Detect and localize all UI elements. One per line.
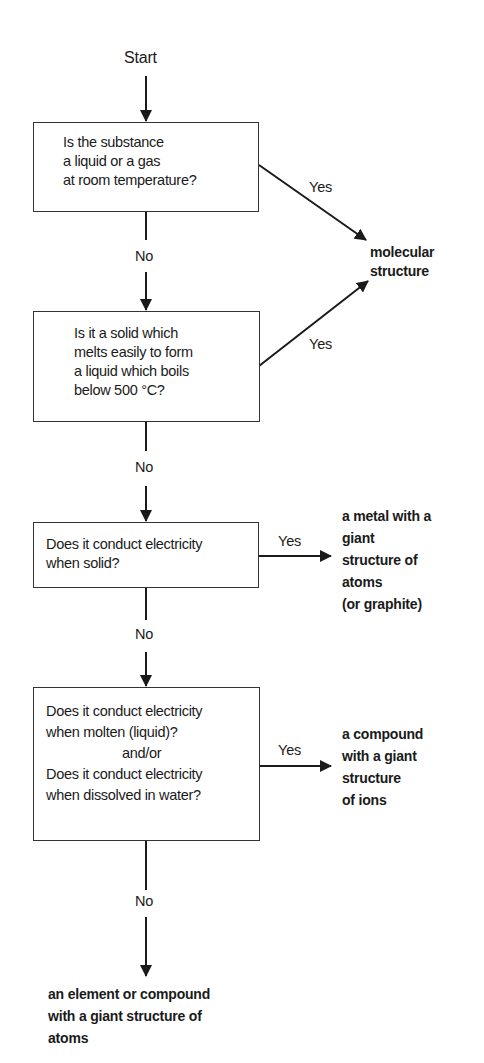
edge-q1-molecular [259, 165, 366, 240]
decision-text-line: a liquid which boils [74, 362, 259, 381]
outcome-text-line: structure [370, 262, 434, 281]
outcome-text-line: giant [342, 527, 431, 549]
decision-text-line: and/or [46, 743, 259, 764]
decision-box-liquid-or-gas: Is the substance a liquid or a gas at ro… [33, 122, 259, 212]
decision-text-line: Is the substance [63, 133, 258, 152]
decision-text-line: Does it conduct electricity [46, 535, 258, 554]
outcome-text-line: with a giant [342, 745, 423, 767]
edge-label-no: No [135, 893, 153, 909]
outcome-text-line: atoms [48, 1027, 210, 1049]
start-label: Start [124, 49, 157, 67]
decision-text-line: at room temperature? [63, 171, 258, 190]
outcome-text-line: of ions [342, 789, 423, 811]
outcome-text-line: atoms [342, 571, 431, 593]
edge-label-yes: Yes [309, 179, 332, 195]
outcome-molecular-structure: molecular structure [370, 243, 434, 281]
edge-label-yes: Yes [309, 336, 332, 352]
outcome-text-line: molecular [370, 243, 434, 262]
decision-text-line: a liquid or a gas [63, 152, 258, 171]
outcome-giant-atoms-element-or-compound: an element or compound with a giant stru… [48, 983, 210, 1049]
edge-label-no: No [135, 626, 153, 642]
decision-box-conducts-molten-or-dissolved: Does it conduct electricity when molten … [33, 687, 260, 841]
decision-text-line: below 500 °C? [74, 381, 259, 400]
decision-text-line: Is it a solid which [74, 324, 259, 343]
outcome-text-line: a compound [342, 723, 423, 745]
edge-label-no: No [135, 248, 153, 264]
outcome-text-line: a metal with a [342, 505, 431, 527]
edge-q2-molecular [259, 281, 368, 366]
decision-text-line: melts easily to form [74, 343, 259, 362]
decision-text-line: when solid? [46, 554, 258, 573]
decision-text-line: when molten (liquid)? [46, 722, 259, 743]
outcome-metal-giant-atoms: a metal with a giant structure of atoms … [342, 505, 431, 615]
outcome-text-line: structure [342, 767, 423, 789]
edge-label-yes: Yes [278, 533, 301, 549]
outcome-text-line: structure of [342, 549, 431, 571]
decision-box-conducts-when-solid: Does it conduct electricity when solid? [33, 522, 259, 588]
outcome-compound-giant-ions: a compound with a giant structure of ion… [342, 723, 423, 811]
outcome-text-line: an element or compound [48, 983, 210, 1005]
decision-text-line: Does it conduct electricity [46, 764, 259, 785]
decision-text-line: when dissolved in water? [46, 785, 259, 806]
outcome-text-line: (or graphite) [342, 593, 431, 615]
decision-text-line: Does it conduct electricity [46, 701, 259, 722]
outcome-text-line: with a giant structure of [48, 1005, 210, 1027]
edge-label-no: No [135, 459, 153, 475]
decision-box-low-melting-solid: Is it a solid which melts easily to form… [33, 311, 260, 422]
edge-label-yes: Yes [278, 742, 301, 758]
